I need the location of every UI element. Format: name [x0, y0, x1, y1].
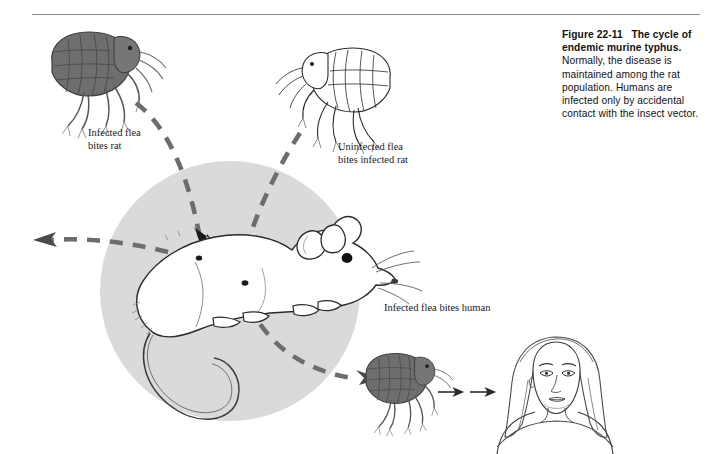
flea-head — [114, 37, 140, 73]
flea-eye — [310, 62, 314, 66]
label-infected-flea-bites-human: Infected flea bites human — [384, 301, 490, 314]
caption-body: Normally, the disease is maintained amon… — [562, 55, 698, 119]
label-uninfected-flea-bites-infected-rat: Uninfected flea bites infected rat — [338, 140, 408, 166]
uninfected-flea-top-right — [276, 48, 390, 154]
caption-figure-number: Figure 22-11 — [562, 29, 623, 40]
flea-eye — [128, 46, 132, 50]
rat-nose — [391, 279, 398, 284]
rat-eye — [342, 253, 353, 263]
infected-flea-bottom — [366, 354, 453, 437]
figure-container: Figure 22-11 The cycle of endemic murine… — [0, 0, 714, 454]
rat-bite-mark-2 — [242, 280, 249, 286]
flea-antennae — [434, 369, 453, 388]
figure-caption: Figure 22-11 The cycle of endemic murine… — [562, 28, 710, 120]
flea-leg-bristles — [374, 408, 438, 436]
flea-eye — [425, 364, 429, 368]
flea-antennae — [136, 52, 166, 92]
flea-head-outline — [302, 53, 328, 89]
flea-antennae — [276, 68, 306, 108]
flea-head — [415, 357, 435, 385]
rat-ear-back — [321, 225, 345, 253]
rat-bite-mark-1 — [196, 255, 202, 260]
infected-flea-top-left — [52, 32, 166, 138]
human-woman-illustration — [497, 337, 613, 454]
label-infected-flea-bites-rat: Infected flea bites rat — [88, 126, 141, 152]
